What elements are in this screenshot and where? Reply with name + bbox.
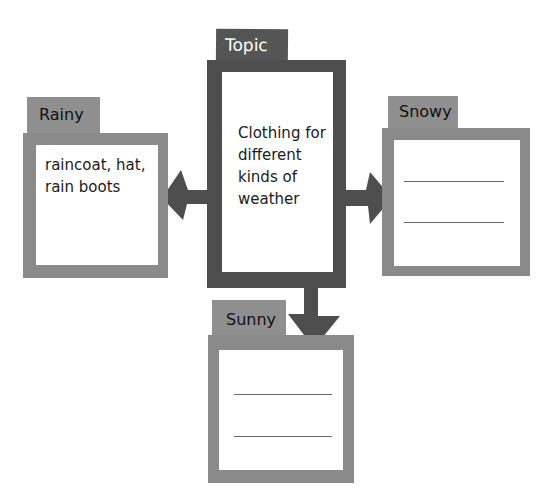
rainy-text: raincoat, hat, rain boots — [45, 154, 160, 198]
topic-tab-label: Topic — [225, 37, 268, 54]
snowy-blank-line-2[interactable] — [404, 222, 504, 223]
sunny-blank-line-1[interactable] — [234, 394, 332, 395]
topic-line: Clothing for — [238, 122, 338, 144]
snowy-blank-line-1[interactable] — [404, 181, 504, 182]
topic-content-area: Clothing for different kinds of weather — [222, 72, 333, 272]
topic-frame: Clothing for different kinds of weather — [207, 60, 346, 288]
snowy-tab: Snowy — [388, 96, 458, 130]
sunny-tab-label: Sunny — [226, 312, 276, 328]
rainy-content-area: raincoat, hat, rain boots — [36, 145, 158, 265]
sunny-tab: Sunny — [212, 300, 286, 337]
topic-text: Clothing for different kinds of weather — [238, 122, 338, 210]
snowy-frame — [382, 128, 530, 276]
rainy-tab: Rainy — [27, 97, 100, 135]
topic-line: weather — [238, 188, 338, 210]
topic-line: kinds of — [238, 166, 338, 188]
topic-tab: Topic — [216, 29, 288, 63]
sunny-content-area — [219, 350, 343, 470]
rainy-frame: raincoat, hat, rain boots — [23, 133, 168, 278]
snowy-tab-label: Snowy — [399, 104, 452, 120]
rainy-line: rain boots — [45, 176, 160, 198]
topic-line: different — [238, 144, 338, 166]
sunny-frame — [208, 335, 354, 483]
sunny-blank-line-2[interactable] — [234, 436, 332, 437]
snowy-content-area — [394, 140, 520, 266]
rainy-line: raincoat, hat, — [45, 154, 160, 176]
rainy-tab-label: Rainy — [39, 107, 84, 123]
